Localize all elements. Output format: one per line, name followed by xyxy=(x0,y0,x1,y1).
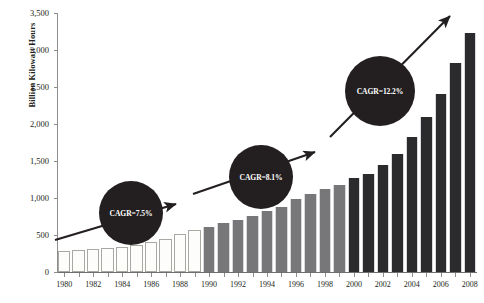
x-tick-mark xyxy=(151,273,152,277)
cagr-annotation-3: CAGR=12.2% xyxy=(345,56,415,126)
x-tick-mark xyxy=(93,273,94,277)
y-tick-label: 1,500 xyxy=(15,157,49,166)
x-tick-mark xyxy=(79,273,80,277)
bar-1989 xyxy=(188,230,200,272)
bar-2000 xyxy=(348,178,360,272)
bar-1980 xyxy=(58,251,70,272)
bar-1983 xyxy=(101,248,113,272)
x-tick-mark xyxy=(166,273,167,277)
bar-2004 xyxy=(406,137,418,272)
y-tick-label: 0 xyxy=(15,268,49,277)
x-tick-mark xyxy=(137,273,138,277)
bar-1991 xyxy=(217,223,229,272)
x-tick-label: 2000 xyxy=(339,281,369,289)
cagr-annotation-1: CAGR=7.5% xyxy=(99,181,163,245)
bar-1994 xyxy=(261,211,273,272)
y-tick-label: 2,500 xyxy=(15,83,49,92)
cagr-annotation-3-label: CAGR=12.2% xyxy=(357,87,404,96)
x-tick-label: 1990 xyxy=(194,281,224,289)
x-tick-label: 2006 xyxy=(426,281,456,289)
x-tick-mark xyxy=(224,273,225,277)
x-tick-label: 1984 xyxy=(107,281,137,289)
x-tick-label: 1996 xyxy=(281,281,311,289)
x-tick-mark xyxy=(455,273,456,277)
bar-1993 xyxy=(246,216,258,272)
x-tick-mark xyxy=(253,273,254,277)
bar-1990 xyxy=(203,227,215,272)
x-tick-label: 1980 xyxy=(49,281,79,289)
x-tick-mark xyxy=(339,273,340,277)
bar-2003 xyxy=(391,154,403,272)
bar-1982 xyxy=(87,249,99,272)
x-tick-mark xyxy=(397,273,398,277)
cagr-annotation-2-label: CAGR=8.1% xyxy=(240,173,283,182)
x-tick-mark xyxy=(180,273,181,277)
bar-2007 xyxy=(449,63,461,272)
x-tick-label: 1992 xyxy=(223,281,253,289)
x-tick-label: 1988 xyxy=(165,281,195,289)
y-tick-mark xyxy=(54,272,58,273)
x-tick-label: 2008 xyxy=(455,281,484,289)
x-tick-mark xyxy=(296,273,297,277)
bar-1999 xyxy=(333,185,345,272)
x-tick-mark xyxy=(325,273,326,277)
bar-1992 xyxy=(232,220,244,272)
bar-2001 xyxy=(362,174,374,272)
y-tick-label: 2,000 xyxy=(15,120,49,129)
bar-1984 xyxy=(116,247,128,272)
x-tick-mark xyxy=(238,273,239,277)
x-tick-mark xyxy=(281,273,282,277)
bar-chart: Billion Kilowatt Hours 05001,0001,5002,0… xyxy=(0,0,484,303)
bar-1996 xyxy=(290,199,302,272)
x-tick-mark xyxy=(64,273,65,277)
y-tick-label: 500 xyxy=(15,231,49,240)
y-tick-label: 3,500 xyxy=(15,9,49,18)
x-tick-mark xyxy=(108,273,109,277)
cagr-annotation-2: CAGR=8.1% xyxy=(229,145,293,209)
x-tick-mark xyxy=(470,273,471,277)
x-tick-mark xyxy=(122,273,123,277)
bar-1986 xyxy=(145,242,157,272)
bar-2002 xyxy=(377,165,389,272)
x-tick-label: 1982 xyxy=(78,281,108,289)
bar-2008 xyxy=(464,33,476,272)
x-tick-label: 1986 xyxy=(136,281,166,289)
cagr-annotation-1-label: CAGR=7.5% xyxy=(110,209,153,218)
x-tick-label: 1998 xyxy=(310,281,340,289)
x-tick-mark xyxy=(441,273,442,277)
bar-2005 xyxy=(420,117,432,272)
bar-1987 xyxy=(159,239,171,272)
x-tick-mark xyxy=(412,273,413,277)
bar-1997 xyxy=(304,194,316,272)
y-tick-label: 3,000 xyxy=(15,46,49,55)
bar-2006 xyxy=(435,94,447,272)
bar-1988 xyxy=(174,234,186,272)
x-tick-mark xyxy=(209,273,210,277)
bar-1981 xyxy=(72,250,84,272)
x-tick-mark xyxy=(267,273,268,277)
x-tick-mark xyxy=(368,273,369,277)
x-tick-mark xyxy=(195,273,196,277)
x-tick-mark xyxy=(426,273,427,277)
x-tick-label: 1994 xyxy=(252,281,282,289)
x-tick-mark xyxy=(354,273,355,277)
bar-1998 xyxy=(319,189,331,272)
x-tick-label: 2002 xyxy=(368,281,398,289)
y-tick-label: 1,000 xyxy=(15,194,49,203)
x-tick-label: 2004 xyxy=(397,281,427,289)
bar-1995 xyxy=(275,207,287,272)
x-tick-mark xyxy=(310,273,311,277)
bar-1985 xyxy=(130,245,142,272)
x-tick-mark xyxy=(383,273,384,277)
